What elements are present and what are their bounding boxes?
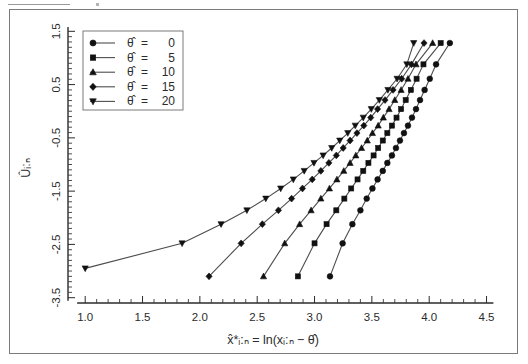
x-tick-label: 1.5 [135,311,151,323]
data-point [386,106,392,112]
data-point [82,266,88,272]
legend-value: 0 [168,36,175,50]
series-theta-0[interactable] [327,40,453,279]
data-point [421,62,426,67]
data-point [401,130,407,136]
data-point [263,196,269,202]
x-tick-label: 4.0 [421,311,437,323]
x-tick-label: 2.5 [249,311,265,323]
x-tick-label: 3.5 [364,311,380,323]
data-point [398,87,404,93]
x-tick-label: 2.0 [192,311,208,323]
x-tick-label: 1.0 [77,311,93,323]
data-point [290,177,296,183]
data-point [366,160,371,165]
legend-value: 10 [162,65,176,79]
data-point [380,168,386,174]
data-point [349,186,354,191]
y-tick-label: -0.5 [50,128,62,148]
data-point [408,87,413,92]
y-tick-label: -3.5 [50,288,62,308]
data-point [301,168,307,174]
data-point [405,123,411,129]
legend-equals: = [141,51,148,65]
data-point [350,221,356,227]
data-point [371,153,376,158]
data-point [361,168,366,173]
legend-equals: = [141,80,148,94]
data-point [392,97,398,103]
data-point [278,186,284,192]
y-tick-label: -1.5 [50,181,62,201]
data-point [417,97,423,103]
y-tick-label: 0.5 [50,77,62,93]
chart-legend[interactable]: θ̂=0θ̂=5θ̂=10θ̂=15θ̂=20 [83,31,183,110]
legend-marker-circle [90,40,96,46]
data-point [413,106,419,112]
data-point [399,107,404,112]
legend-equals: = [141,36,148,50]
data-point [447,40,453,46]
data-point [411,41,417,47]
data-point [380,138,385,143]
y-tick-label: 1.5 [50,23,62,39]
legend-equals: = [141,94,148,108]
data-point [342,196,347,201]
data-point [394,115,399,120]
data-point [340,240,346,246]
figure-page: 1.01.52.02.53.03.54.04.51.50.5-0.5-1.5-2… [0,0,528,364]
data-point [433,62,439,68]
data-point [409,115,415,121]
y-axis-title: Ûᵢ:ₙ [18,158,33,177]
legend-marker-square [90,55,95,60]
data-point [324,222,329,227]
legend-value: 5 [168,51,175,65]
data-point [244,208,250,214]
data-point [389,123,394,128]
series-theta-10[interactable] [260,40,435,279]
data-point [355,177,360,182]
data-point [295,274,300,279]
data-point [370,186,376,192]
data-point [358,207,364,213]
data-point [397,138,403,144]
data-point [403,98,408,103]
data-point [312,241,317,246]
y-tick-label: -2.5 [50,234,62,254]
legend-equals: = [141,65,148,79]
x-tick-label: 3.0 [307,311,323,323]
data-point [421,40,427,47]
data-point [327,274,333,280]
data-point [218,222,224,228]
data-point [438,41,443,46]
x-axis-title: x̂*ᵢ:ₙ = ln(xᵢ:ₙ − θ̂) [227,333,319,347]
data-point [334,208,339,213]
data-point [427,76,433,82]
x-tick-label: 4.5 [479,311,495,323]
probability-plot: 1.01.52.02.53.03.54.04.51.50.5-0.5-1.5-2… [0,0,528,364]
legend-value: 20 [162,94,176,108]
data-point [375,177,381,183]
data-point [376,145,381,150]
legend-value: 15 [162,80,176,94]
data-point [405,75,411,81]
data-point [364,196,370,202]
data-point [385,131,390,136]
data-point [422,87,428,93]
data-point [414,76,419,81]
data-point [430,40,436,46]
data-point [389,153,395,159]
data-point [384,160,390,166]
data-point [393,145,399,151]
